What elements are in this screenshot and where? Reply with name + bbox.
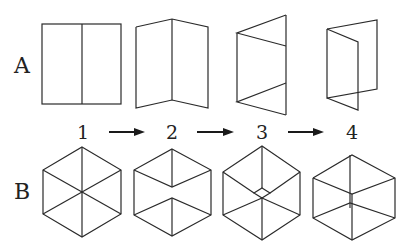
step-label-1: 1 — [77, 121, 89, 143]
row-label-b: B — [14, 179, 30, 204]
step-label-2: 2 — [166, 121, 178, 143]
diagram-canvas: A B 1 2 3 4 — [0, 0, 401, 250]
b-step-4-wireframe-cube — [313, 155, 395, 240]
b-step-1-hexagon-diagonals — [43, 147, 121, 237]
step-label-3: 3 — [256, 121, 268, 143]
row-label-a: A — [13, 53, 31, 78]
step-label-4: 4 — [346, 121, 358, 143]
a-step-1-flat-sheet — [42, 24, 121, 104]
a-step-3-half-folded — [237, 15, 286, 115]
a-step-2-slightly-folded — [136, 19, 208, 108]
arrow-right-icon — [197, 128, 234, 136]
arrow-right-icon — [109, 128, 145, 136]
arrow-right-icon — [288, 128, 324, 136]
b-step-2-hexagon-split — [134, 149, 211, 236]
a-step-4-nearly-closed — [327, 20, 377, 110]
b-step-3-hexagon-diamond — [223, 146, 300, 240]
